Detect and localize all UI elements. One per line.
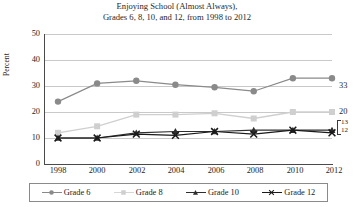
square-marker-icon [114, 188, 134, 197]
data-point [172, 82, 178, 88]
data-point [133, 112, 139, 118]
data-point [290, 75, 296, 81]
data-point [329, 75, 335, 81]
data-point [290, 109, 296, 115]
data-point [329, 109, 335, 115]
chart-legend: Grade 6 Grade 8 Grade 10 Grade 12 [29, 183, 328, 202]
chart-root: Enjoying School (Almost Always), Grades … [0, 0, 354, 207]
circle-marker-icon [42, 188, 62, 197]
end-label-grade-12: 12 [341, 127, 348, 134]
data-point [55, 98, 61, 104]
legend-label-grade-6: Grade 6 [64, 188, 91, 197]
series-layer [55, 75, 336, 141]
triangle-marker-icon [186, 188, 206, 197]
data-point [94, 80, 100, 86]
data-point [133, 78, 139, 84]
legend-item-grade-12[interactable]: Grade 12 [262, 188, 315, 197]
legend-item-grade-10[interactable]: Grade 10 [186, 188, 239, 197]
data-point [251, 116, 257, 122]
legend-item-grade-6[interactable]: Grade 6 [42, 188, 91, 197]
series-grade-6 [55, 75, 335, 105]
legend-label-grade-12: Grade 12 [284, 188, 315, 197]
x-marker-icon [262, 188, 282, 197]
legend-label-grade-10: Grade 10 [208, 188, 239, 197]
data-point [212, 110, 218, 116]
legend-label-grade-8: Grade 8 [136, 188, 163, 197]
data-point [211, 84, 217, 90]
data-point [94, 123, 100, 129]
end-label-grade-6: 33 [339, 81, 347, 90]
data-point [172, 112, 178, 118]
chart-plot-area [0, 0, 354, 207]
end-label-grade-8: 20 [339, 107, 347, 116]
data-point [251, 88, 257, 94]
end-label-grade-10: 13 [341, 119, 348, 126]
legend-item-grade-8[interactable]: Grade 8 [114, 188, 163, 197]
